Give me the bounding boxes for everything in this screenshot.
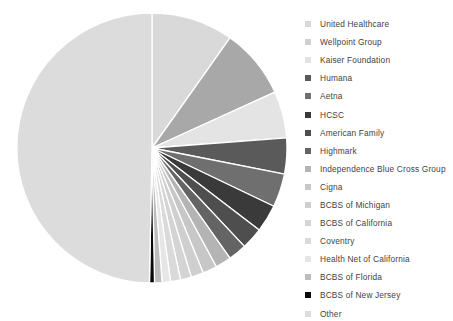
legend-item-label: Coventry [320, 236, 355, 246]
legend-item-label: BCBS of New Jersey [320, 290, 400, 300]
legend-swatch-icon [305, 57, 311, 63]
legend-swatch-icon [305, 311, 311, 317]
legend-item-label: Humana [320, 73, 352, 83]
pie-svg [0, 0, 295, 302]
legend-swatch-icon [305, 93, 311, 99]
legend-swatch-icon [305, 21, 311, 27]
legend-item-label: Highmark [320, 146, 357, 156]
legend-item[interactable]: BCBS of California [300, 214, 453, 232]
legend-item[interactable]: BCBS of Florida [300, 268, 453, 286]
legend-item-label: Cigna [320, 182, 343, 192]
legend-item[interactable]: Wellpoint Group [300, 33, 453, 51]
legend-item[interactable]: American Family [300, 124, 453, 142]
legend-item-label: Kaiser Foundation [320, 55, 390, 65]
legend-item[interactable]: Humana [300, 69, 453, 87]
legend-swatch-icon [305, 202, 311, 208]
legend-swatch-icon [305, 184, 311, 190]
legend-item[interactable]: BCBS of New Jersey [300, 286, 453, 304]
pie-plot-area [0, 0, 295, 302]
legend-item-label: United Healthcare [320, 19, 389, 29]
legend-item-label: BCBS of Florida [320, 272, 382, 282]
legend-item-label: Health Net of California [320, 254, 410, 264]
legend-swatch-icon [305, 130, 311, 136]
legend-swatch-icon [305, 75, 311, 81]
legend-item[interactable]: United Healthcare [300, 15, 453, 33]
legend-item[interactable]: Independence Blue Cross Group [300, 160, 453, 178]
pie-slice-group [17, 13, 287, 283]
legend-item[interactable]: BCBS of Michigan [300, 196, 453, 214]
legend-item-label: Aetna [320, 91, 343, 101]
legend-item-label: Independence Blue Cross Group [320, 164, 446, 174]
legend-item[interactable]: Health Net of California [300, 250, 453, 268]
legend-item-label: Other [320, 309, 342, 319]
legend-item-label: BCBS of California [320, 218, 392, 228]
legend-swatch-icon [305, 39, 311, 45]
legend-item-label: American Family [320, 128, 384, 138]
chart-legend: United HealthcareWellpoint GroupKaiser F… [300, 15, 453, 305]
legend-item-label: HCSC [320, 110, 344, 120]
legend-swatch-icon [305, 256, 311, 262]
legend-item[interactable]: Other [300, 305, 453, 321]
legend-swatch-icon [305, 220, 311, 226]
legend-item[interactable]: Aetna [300, 87, 453, 105]
legend-swatch-icon [305, 238, 311, 244]
legend-swatch-icon [305, 148, 311, 154]
legend-swatch-icon [305, 292, 311, 298]
legend-item[interactable]: Cigna [300, 178, 453, 196]
legend-swatch-icon [305, 112, 311, 118]
legend-item-label: BCBS of Michigan [320, 200, 390, 210]
legend-item[interactable]: HCSC [300, 105, 453, 123]
legend-item[interactable]: Highmark [300, 142, 453, 160]
pie-slice[interactable] [17, 13, 152, 283]
legend-item-label: Wellpoint Group [320, 37, 382, 47]
legend-swatch-icon [305, 274, 311, 280]
legend-item[interactable]: Kaiser Foundation [300, 51, 453, 69]
legend-item[interactable]: Coventry [300, 232, 453, 250]
legend-swatch-icon [305, 166, 311, 172]
